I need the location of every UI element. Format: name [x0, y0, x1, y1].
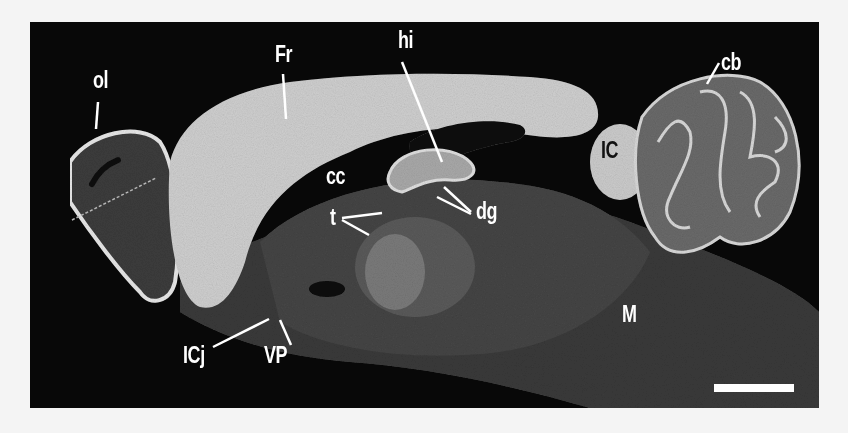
scale-bar: [714, 384, 794, 392]
label-hi-hippocampus: hi: [398, 29, 413, 52]
label-vp-ventral-pallidum: VP: [264, 344, 287, 367]
label-icj-islands-of-calleja: ICj: [183, 344, 205, 367]
label-cb-cerebellum: cb: [721, 51, 741, 74]
label-m-medulla: M: [622, 303, 637, 326]
label-fr-frontal-cortex: Fr: [275, 43, 292, 66]
micrograph-panel: ol Fr hi cb IC cc t dg M ICj VP: [30, 22, 819, 408]
brain-section-image: [30, 22, 819, 408]
label-cc-corpus-callosum: cc: [326, 165, 345, 188]
label-t-thalamus: t: [330, 206, 336, 229]
label-dg-dentate-gyrus: dg: [476, 200, 497, 223]
label-ol-olfactory-bulb: ol: [93, 69, 108, 92]
label-ic-inferior-colliculus: IC: [601, 139, 618, 162]
